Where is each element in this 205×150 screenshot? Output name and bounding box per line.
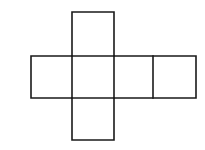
net-face-bottom xyxy=(72,98,114,140)
net-face-center xyxy=(72,56,114,98)
net-face-far-right xyxy=(153,56,196,98)
figure-container: (a) xyxy=(0,0,205,150)
net-face-top xyxy=(72,12,114,56)
net-face-left xyxy=(31,56,72,98)
net-face-right xyxy=(114,56,153,98)
cube-net-diagram xyxy=(0,0,205,150)
